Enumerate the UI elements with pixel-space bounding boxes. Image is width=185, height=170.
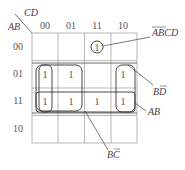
cell-01-10: 1 xyxy=(121,69,126,80)
row-label-11: 11 xyxy=(13,95,23,106)
grid xyxy=(32,33,137,143)
col-label-11: 11 xyxy=(92,20,102,31)
row-label-00: 00 xyxy=(13,41,23,52)
cell-00-11: 1 xyxy=(95,42,100,53)
row-label-01: 01 xyxy=(13,68,23,79)
cell-11-10: 1 xyxy=(121,96,126,107)
col-label-00: 00 xyxy=(40,20,50,31)
svg-text:BC: BC xyxy=(107,149,120,160)
label-ab: AB xyxy=(147,106,160,117)
row-label-10: 10 xyxy=(13,123,23,134)
cell-11-11: 1 xyxy=(95,96,100,107)
label-b-cbar: BC xyxy=(107,149,120,160)
svg-text:BD: BD xyxy=(153,86,167,97)
leader-lines xyxy=(85,37,153,150)
karnaugh-map: CD AB 00 01 11 10 00 01 11 10 1 1 1 1 1 … xyxy=(0,0,185,170)
cell-01-01: 1 xyxy=(69,69,74,80)
svg-text:ABCD: ABCD xyxy=(151,27,179,38)
loop-b-dbar xyxy=(116,65,135,112)
cell-11-00: 1 xyxy=(43,96,48,107)
col-label-10: 10 xyxy=(118,20,128,31)
row-var-label: AB xyxy=(7,21,20,32)
col-label-01: 01 xyxy=(66,20,76,31)
col-var-label: CD xyxy=(24,7,39,18)
label-abar-bbar-c-d: ABCD xyxy=(151,27,179,38)
cell-11-01: 1 xyxy=(69,96,74,107)
label-b-dbar: BD xyxy=(153,86,167,97)
cell-01-00: 1 xyxy=(43,69,48,80)
